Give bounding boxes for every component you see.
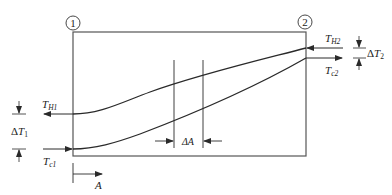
hot-fluid-curve [73, 48, 306, 114]
th1-label: TH1 [42, 98, 57, 112]
dt2-label: ΔT2 [367, 47, 384, 61]
tc1-label: Tc1 [43, 155, 56, 169]
diagram-svg: 1 2 ΔA TH1 Tc1 ΔT1 TH2 Tc2 ΔT2 A [0, 0, 392, 195]
station-1-label: 1 [70, 17, 76, 29]
station-2-marker: 2 [298, 15, 312, 29]
heat-exchanger-diagram: 1 2 ΔA TH1 Tc1 ΔT1 TH2 Tc2 ΔT2 A [0, 0, 392, 195]
a-label: A [94, 179, 102, 191]
th2-label: TH2 [325, 32, 341, 46]
station-1-marker: 1 [66, 16, 80, 30]
delta-a-label: ΔA [181, 136, 195, 147]
station-2-label: 2 [302, 16, 308, 28]
tc2-label: Tc2 [325, 64, 338, 78]
dt1-label: ΔT1 [11, 125, 28, 139]
